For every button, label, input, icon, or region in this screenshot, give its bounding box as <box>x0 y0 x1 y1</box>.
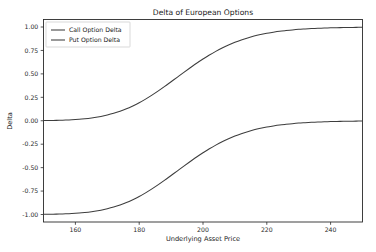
y-tick-label: -0.25 <box>22 140 38 147</box>
x-tick-label: 160 <box>69 226 81 233</box>
chart-title: Delta of European Options <box>153 8 253 17</box>
delta-line-chart: Delta of European Options 16018020022024… <box>0 0 376 252</box>
x-tick-label: 180 <box>133 226 145 233</box>
y-tick-label: 1.00 <box>25 23 39 30</box>
x-axis-title: Underlying Asset Price <box>166 235 240 243</box>
y-tick-label: -1.00 <box>22 211 38 218</box>
y-axis-title: Delta <box>6 112 14 130</box>
y-tick-label: 0.00 <box>25 117 39 124</box>
legend-label-call: Call Option Delta <box>69 26 122 34</box>
y-tick-label: 0.25 <box>25 94 39 101</box>
x-tick-label: 240 <box>325 226 337 233</box>
x-tick-label: 220 <box>261 226 273 233</box>
y-tick-label: 0.50 <box>25 70 39 77</box>
y-tick-label: -0.75 <box>22 187 38 194</box>
y-tick-label: 0.75 <box>25 47 39 54</box>
chart-legend: Call Option DeltaPut Option Delta <box>46 22 130 47</box>
legend-label-put: Put Option Delta <box>69 36 120 44</box>
y-tick-label: -0.50 <box>22 164 38 171</box>
chart-figure: Delta of European Options 16018020022024… <box>0 0 376 252</box>
x-tick-label: 200 <box>197 226 209 233</box>
